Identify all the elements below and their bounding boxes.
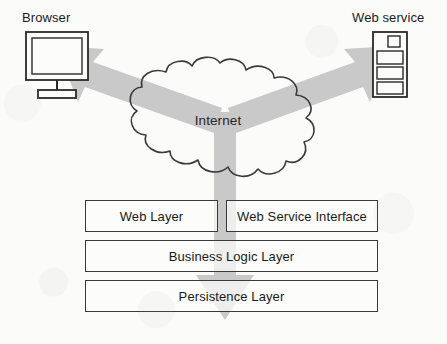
- business-logic-layer-box: Business Logic Layer: [85, 240, 378, 272]
- web-layer-label: Web Layer: [120, 209, 184, 224]
- server-rack-icon: [373, 32, 407, 97]
- browser-label: Browser: [22, 10, 70, 25]
- business-logic-layer-label: Business Logic Layer: [169, 249, 295, 264]
- monitor-icon: [26, 32, 88, 98]
- persistence-layer-label: Persistence Layer: [179, 289, 285, 304]
- web-service-interface-box: Web Service Interface: [226, 200, 378, 232]
- persistence-layer-box: Persistence Layer: [85, 280, 378, 312]
- diagram-canvas: Browser Web service Internet Web Layer W…: [0, 0, 447, 344]
- web-service-label: Web service: [352, 10, 424, 25]
- web-service-interface-label: Web Service Interface: [237, 209, 367, 224]
- web-layer-box: Web Layer: [85, 200, 218, 232]
- internet-label: Internet: [118, 113, 318, 128]
